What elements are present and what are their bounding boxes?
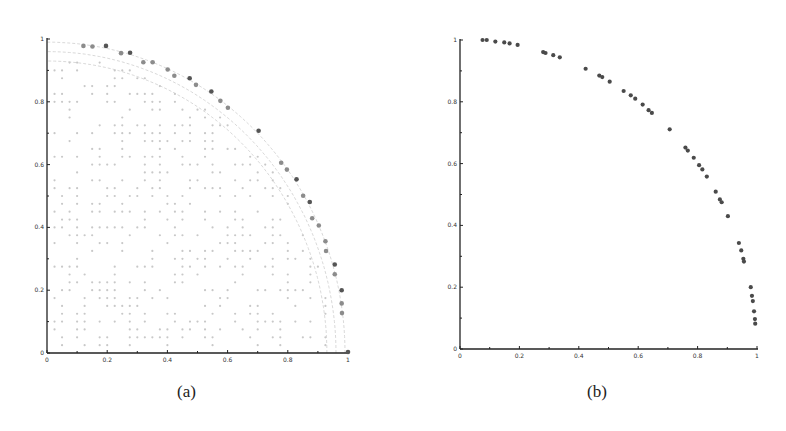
candidate-point: [151, 336, 153, 338]
candidate-point: [174, 101, 176, 103]
candidate-point: [279, 328, 281, 330]
candidate-point: [219, 328, 221, 330]
candidate-point: [53, 321, 55, 323]
candidate-point: [234, 179, 236, 181]
candidate-point: [106, 164, 108, 166]
caption-b: (b): [587, 382, 607, 402]
candidate-point: [309, 321, 311, 323]
candidate-point: [287, 281, 289, 283]
candidate-point: [106, 226, 108, 228]
candidate-point: [76, 242, 78, 244]
y-tick-label: 0: [40, 349, 44, 356]
candidate-point: [144, 179, 146, 181]
candidate-point: [106, 85, 108, 87]
candidate-point: [264, 187, 266, 189]
candidate-point: [99, 336, 101, 338]
candidate-point: [257, 156, 259, 158]
candidate-point: [129, 109, 131, 111]
front-point: [90, 44, 95, 49]
candidate-point: [257, 179, 259, 181]
candidate-point: [211, 124, 213, 126]
candidate-point: [227, 234, 229, 236]
candidate-point: [249, 195, 251, 197]
candidate-point: [106, 344, 108, 346]
candidate-point: [234, 321, 236, 323]
candidate-point: [159, 336, 161, 338]
front-point: [339, 288, 344, 293]
candidate-point: [181, 156, 183, 158]
data-point: [507, 41, 511, 45]
candidate-point: [196, 179, 198, 181]
y-tick-label: 0.2: [34, 286, 44, 293]
data-point: [558, 55, 562, 59]
candidate-point: [174, 321, 176, 323]
candidate-point: [91, 234, 93, 236]
reference-arc: [47, 52, 336, 353]
candidate-point: [129, 305, 131, 307]
candidate-point: [227, 148, 229, 150]
front-point: [194, 83, 199, 88]
front-point: [317, 223, 322, 228]
front-point: [285, 167, 290, 172]
candidate-point: [174, 203, 176, 205]
candidate-point: [99, 61, 101, 63]
candidate-point: [91, 148, 93, 150]
candidate-point: [249, 336, 251, 338]
front-point: [301, 193, 306, 198]
candidate-point: [159, 171, 161, 173]
candidate-point: [68, 187, 70, 189]
chart-panel-a: 00.20.40.60.8100.20.40.60.81: [34, 35, 350, 363]
x-tick-label: 0: [45, 356, 49, 363]
candidate-point: [121, 148, 123, 150]
candidate-point: [189, 328, 191, 330]
candidate-point: [211, 313, 213, 315]
candidate-point: [159, 187, 161, 189]
candidate-point: [106, 297, 108, 299]
candidate-point: [76, 156, 78, 158]
candidate-point: [84, 313, 86, 315]
front-point: [279, 160, 284, 165]
candidate-point: [181, 218, 183, 220]
candidate-point: [242, 226, 244, 228]
data-point: [753, 317, 757, 321]
candidate-point: [309, 281, 311, 283]
candidate-point: [166, 171, 168, 173]
candidate-point: [114, 273, 116, 275]
candidate-point: [189, 140, 191, 142]
front-point: [332, 272, 337, 277]
candidate-point: [151, 109, 153, 111]
candidate-point: [264, 266, 266, 268]
candidate-point: [309, 336, 311, 338]
candidate-point: [272, 234, 274, 236]
candidate-point: [129, 195, 131, 197]
candidate-point: [204, 187, 206, 189]
data-point: [720, 200, 724, 204]
candidate-point: [227, 258, 229, 260]
candidate-point: [114, 164, 116, 166]
front-point: [150, 60, 155, 65]
candidate-point: [204, 258, 206, 260]
candidate-point: [151, 140, 153, 142]
front-point: [339, 301, 344, 306]
candidate-point: [181, 140, 183, 142]
candidate-point: [121, 242, 123, 244]
data-point: [749, 285, 753, 289]
candidate-point: [211, 187, 213, 189]
candidate-point: [302, 289, 304, 291]
candidate-point: [76, 195, 78, 197]
candidate-point: [174, 273, 176, 275]
candidate-point: [106, 187, 108, 189]
candidate-point: [136, 93, 138, 95]
candidate-point: [144, 140, 146, 142]
candidate-point: [181, 164, 183, 166]
candidate-point: [121, 132, 123, 134]
candidate-point: [114, 297, 116, 299]
candidate-point: [272, 187, 274, 189]
candidate-point: [114, 321, 116, 323]
data-point: [751, 299, 755, 303]
candidate-point: [106, 242, 108, 244]
data-point: [700, 167, 704, 171]
candidate-point: [144, 218, 146, 220]
candidate-point: [166, 242, 168, 244]
data-point: [493, 39, 497, 43]
